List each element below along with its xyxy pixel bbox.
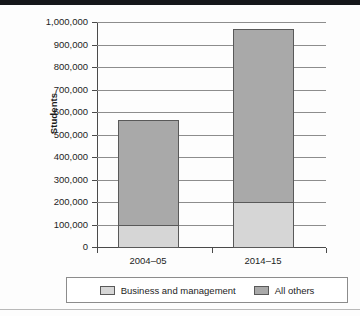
legend-swatch-all-others: [254, 286, 269, 295]
bar-segment-business-and-management: [118, 225, 179, 249]
x-axis-tick: [212, 248, 213, 253]
legend-label-all-others: All others: [275, 285, 315, 296]
y-axis-tick-label: 700,000: [54, 85, 88, 95]
bar-segment-business-and-management: [233, 202, 294, 248]
y-axis-tick-label: 600,000: [54, 107, 88, 117]
y-axis-tick-label: 1,000,000: [46, 17, 88, 27]
scan-bottom-rule: [0, 309, 360, 310]
bar-2014-15: [233, 22, 294, 247]
scan-top-edge-band: [0, 0, 360, 5]
legend-swatch-business-and-management: [100, 286, 115, 295]
bar-segment-all-others: [233, 29, 294, 203]
bar-2004-05: [118, 22, 179, 247]
y-axis-tick-label: 200,000: [54, 197, 88, 207]
y-axis-tick-label: 900,000: [54, 40, 88, 50]
chart-legend: Business and management All others: [66, 277, 348, 303]
x-axis-tick-label: 2014–15: [208, 255, 318, 266]
legend-label-business-and-management: Business and management: [121, 285, 236, 296]
y-axis-tick-label: 100,000: [54, 220, 88, 230]
y-axis-tick-label: 0: [83, 242, 88, 252]
x-axis-tick-label: 2004–05: [93, 255, 203, 266]
stacked-bar-chart-figure: Students 1,000,000900,000800,000700,0006…: [0, 0, 360, 316]
y-axis-tick-label: 500,000: [54, 130, 88, 140]
x-axis-tick: [97, 248, 98, 253]
y-axis-tick-label: 400,000: [54, 152, 88, 162]
x-axis-tick: [326, 248, 327, 253]
plot-area: [97, 22, 326, 247]
y-axis-tick-label: 300,000: [54, 175, 88, 185]
legend-item-business-and-management: Business and management: [100, 285, 236, 296]
y-axis-tick-label: 800,000: [54, 62, 88, 72]
bar-segment-all-others: [118, 120, 179, 226]
legend-item-all-others: All others: [254, 285, 315, 296]
